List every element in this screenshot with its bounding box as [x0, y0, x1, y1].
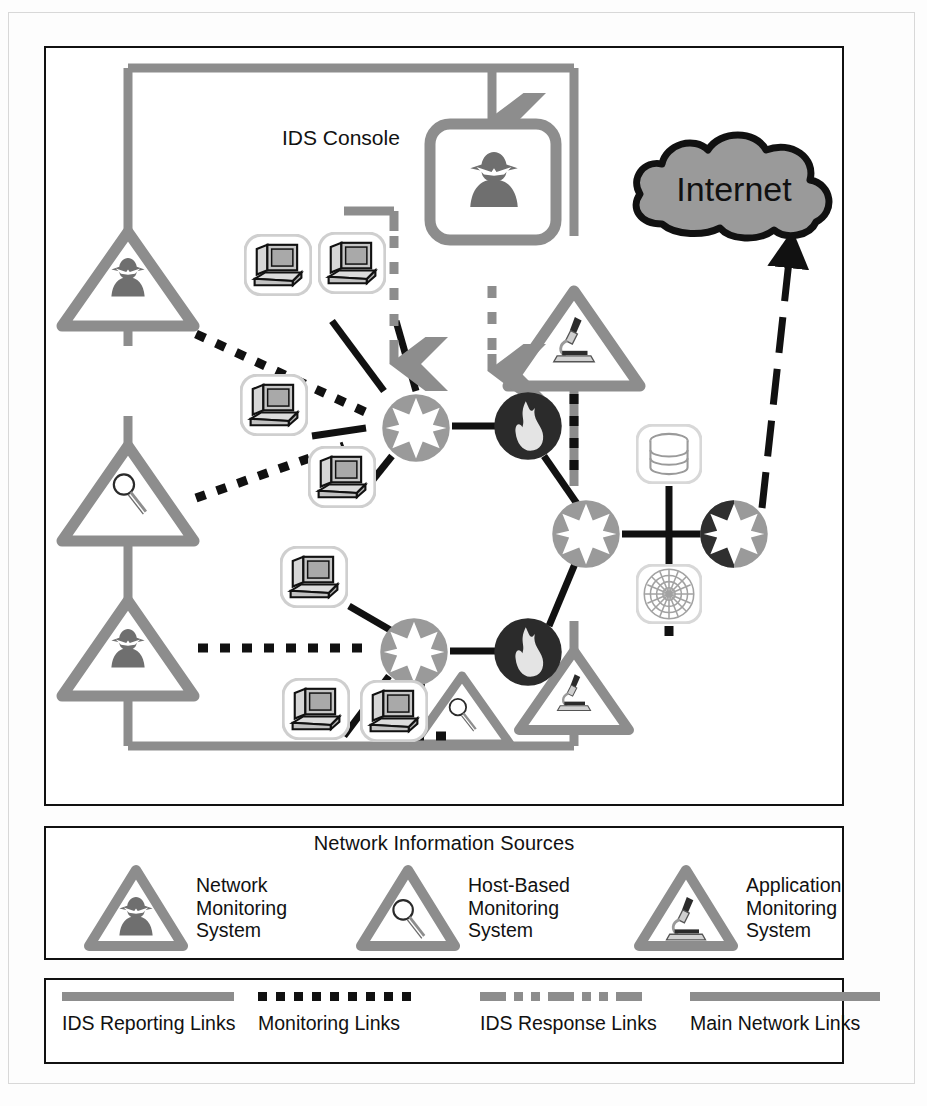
router-icon [380, 618, 448, 686]
legend-main-network-links-label: Main Network Links [690, 1012, 880, 1035]
main-network-link-swatch [690, 992, 880, 1001]
router-center[interactable] [552, 500, 620, 568]
ws-1[interactable] [245, 235, 311, 295]
internet-cloud[interactable]: Internet [636, 135, 829, 238]
topology-diagram: Internet [44, 46, 844, 806]
workstation-icon [245, 235, 311, 295]
ws-3[interactable] [241, 375, 307, 435]
ids-console[interactable] [430, 124, 556, 240]
legend-main-network-links: Main Network Links [690, 992, 880, 1054]
workstation-icon [283, 679, 349, 739]
legend-ids-response-links-label: IDS Response Links [480, 1012, 650, 1035]
legend-host-monitoring-label: Host-Based Monitoring System [468, 874, 570, 942]
net-monitor-bottom-left[interactable] [62, 601, 194, 696]
app-monitor-top[interactable] [508, 291, 640, 386]
ids-reporting-link-swatch [62, 992, 234, 1001]
legend-network-monitoring-label: Network Monitoring System [196, 874, 287, 942]
legend-application-monitoring: Application Monitoring System [634, 862, 841, 954]
spy-triangle-icon [84, 864, 188, 952]
firewall-icon [494, 618, 562, 686]
magnifier-triangle-icon [356, 864, 460, 952]
database-icon [637, 425, 701, 483]
legend-application-monitoring-label: Application Monitoring System [746, 874, 841, 942]
legend-monitoring-links-label: Monitoring Links [258, 1012, 418, 1035]
legend-ids-reporting-links: IDS Reporting Links [62, 992, 234, 1054]
firewall-icon [494, 392, 562, 460]
database-server[interactable] [637, 425, 701, 483]
ws-6[interactable] [283, 679, 349, 739]
legend-ids-reporting-links-label: IDS Reporting Links [62, 1012, 234, 1035]
firewall-top[interactable] [494, 392, 562, 460]
sources-legend-title: Network Information Sources [44, 832, 844, 855]
legend-network-monitoring: Network Monitoring System [84, 862, 287, 954]
workstation-icon [361, 681, 427, 741]
ids-response-link-swatch [480, 992, 650, 1001]
host-monitor-bottom[interactable] [414, 676, 510, 744]
host-monitor-mid-left[interactable] [62, 446, 194, 541]
router-icon [552, 500, 620, 568]
legend-monitoring-links: Monitoring Links [258, 992, 418, 1054]
diagram-page: Internet [0, 0, 927, 1106]
ws-5[interactable] [281, 547, 347, 607]
microscope-triangle-icon [634, 864, 738, 952]
globe-icon [637, 565, 701, 623]
ids-console-label: IDS Console [282, 126, 400, 150]
router-left-top[interactable] [382, 394, 450, 462]
legend-host-monitoring: Host-Based Monitoring System [356, 862, 570, 954]
net-monitor-top-left[interactable] [62, 232, 194, 326]
router-icon [700, 500, 768, 568]
router-edge[interactable] [700, 500, 768, 568]
router-icon [382, 394, 450, 462]
ws-2[interactable] [319, 233, 385, 293]
ws-7[interactable] [361, 681, 427, 741]
monitoring-link-swatch [258, 992, 418, 1001]
workstation-icon [281, 547, 347, 607]
legend-ids-response-links: IDS Response Links [480, 992, 650, 1054]
firewall-bottom[interactable] [494, 618, 562, 686]
workstation-icon [241, 375, 307, 435]
workstation-icon [309, 447, 375, 507]
ws-4[interactable] [309, 447, 375, 507]
router-left-bottom[interactable] [380, 618, 448, 686]
internet-label: Internet [676, 170, 792, 208]
web-server[interactable] [637, 565, 701, 623]
workstation-icon [319, 233, 385, 293]
